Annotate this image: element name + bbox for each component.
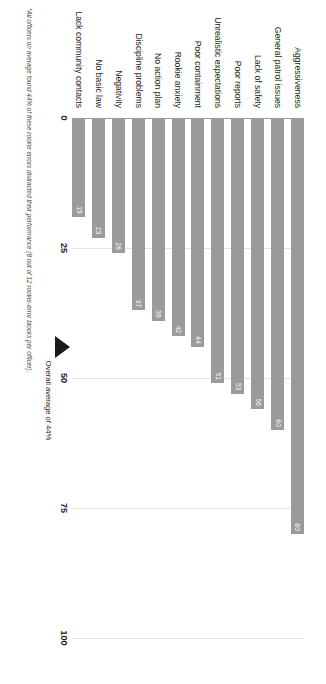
bar[interactable]: 37 [132,118,145,310]
axis-tick-label: 50 [59,373,68,383]
category-label: No basic law [92,0,105,114]
bar-value-label: 53 [235,383,242,391]
category-label: Negativity [112,0,125,114]
bar[interactable]: 39 [152,118,165,321]
bar-value-label: 80 [294,523,301,531]
bar-value-label: 19 [75,206,82,214]
bar[interactable]: 44 [191,118,204,347]
overall-average-marker-icon [55,336,70,358]
bar-series: 806056535144423937262319 [72,118,304,638]
category-label: Aggressiveness [291,0,304,114]
bar-row[interactable]: 37 [132,118,145,638]
bar-value-label: 37 [135,300,142,308]
bar-value-label: 23 [95,227,102,235]
bar-row[interactable]: 19 [72,118,85,638]
chart-rotation-wrapper: Aggressiveness General patrol issues Lac… [0,0,326,684]
bar[interactable]: 80 [291,118,304,534]
gridline [72,638,304,639]
bar-row[interactable]: 53 [231,118,244,638]
bar[interactable]: 42 [172,118,185,336]
axis-tick-label: 25 [59,243,68,253]
category-label: Poor reports [231,0,244,114]
bar-value-label: 56 [254,399,261,407]
footnote: *All officers on average found 44% of th… [25,8,34,568]
category-label: Lack community contacts [72,0,85,114]
bar[interactable]: 51 [211,118,224,383]
bar-value-label: 44 [195,336,202,344]
bar-value-label: 60 [274,419,281,427]
bar-row[interactable]: 42 [172,118,185,638]
category-label: General patrol issues [271,0,284,114]
axis-tick-label: 75 [59,503,68,513]
bar-row[interactable]: 80 [291,118,304,638]
bar[interactable]: 56 [251,118,264,409]
plot-area: 806056535144423937262319 [72,118,304,638]
value-axis: 0255075100 [52,118,68,638]
bar[interactable]: 53 [231,118,244,394]
category-axis: Aggressiveness General patrol issues Lac… [72,0,304,114]
bar-value-label: 51 [215,373,222,381]
bar[interactable]: 23 [92,118,105,238]
category-label: Unrealistic expectations [211,0,224,114]
category-label: Rookie anxiety [172,0,185,114]
bar-row[interactable]: 23 [92,118,105,638]
bar-row[interactable]: 26 [112,118,125,638]
category-label: Lack of safety [251,0,264,114]
bar-row[interactable]: 56 [251,118,264,638]
bar-chart-figure: Aggressiveness General patrol issues Lac… [0,0,326,684]
axis-tick-label: 0 [59,115,68,120]
bar[interactable]: 60 [271,118,284,430]
category-label: No action plan [152,0,165,114]
bar-row[interactable]: 44 [191,118,204,638]
axis-tick-label: 100 [59,630,68,645]
bar-row[interactable]: 60 [271,118,284,638]
category-label: Poor containment [191,0,204,114]
category-label: Discipline problems [132,0,145,114]
overall-average-label: Overall average of 44% [44,361,52,440]
bar-value-label: 42 [175,326,182,334]
bar-value-label: 39 [155,310,162,318]
bar[interactable]: 19 [72,118,85,217]
bar-value-label: 26 [115,243,122,251]
bar-row[interactable]: 51 [211,118,224,638]
bar[interactable]: 26 [112,118,125,253]
bar-row[interactable]: 39 [152,118,165,638]
